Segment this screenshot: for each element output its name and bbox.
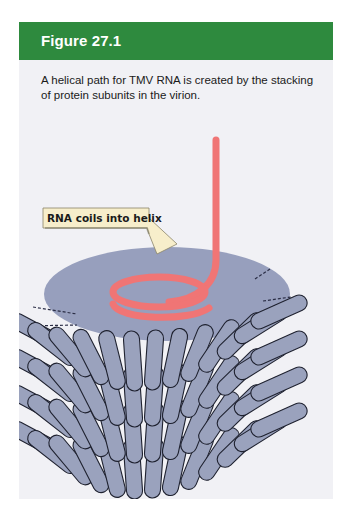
- callout-label: RNA coils into helix: [47, 212, 162, 224]
- figure-panel: Figure 27.1 A helical path for TMV RNA i…: [19, 22, 333, 499]
- tmv-helix-illustration: [19, 22, 333, 499]
